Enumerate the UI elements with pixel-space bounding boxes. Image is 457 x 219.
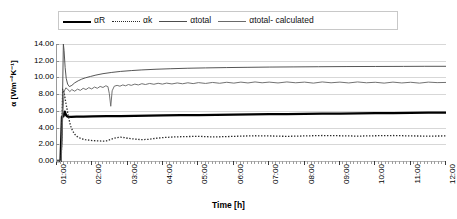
x-axis-minor-tick <box>251 161 252 164</box>
x-axis-minor-tick <box>219 161 220 164</box>
x-axis-major-tick <box>374 161 375 165</box>
x-axis-minor-tick <box>123 161 124 164</box>
x-axis-tick-label: 01:00 <box>60 164 68 196</box>
x-axis-minor-tick <box>261 161 262 164</box>
x-axis-minor-tick <box>325 161 326 164</box>
x-axis-minor-tick <box>187 161 188 164</box>
legend-item-1: αk <box>112 16 152 26</box>
x-axis-tick-label: 10:00 <box>378 164 386 196</box>
x-axis-minor-tick <box>254 161 255 164</box>
x-axis-tick-label: 12:00 <box>449 164 457 196</box>
y-axis-tick-mark <box>56 144 59 145</box>
x-axis-title: Time [h] <box>0 200 457 210</box>
x-axis-minor-tick <box>399 161 400 164</box>
y-axis-title: α [Wm⁻²K⁻¹] <box>9 46 18 122</box>
y-axis-tick-mark <box>56 77 59 78</box>
x-axis-minor-tick <box>431 161 432 164</box>
legend-item-label: αtotal <box>190 16 211 25</box>
x-axis-tick-label: 09:00 <box>343 164 351 196</box>
x-axis-tick-label: 04:00 <box>166 164 174 196</box>
x-axis-minor-tick <box>367 161 368 164</box>
x-axis-tick-label: 11:00 <box>414 164 422 196</box>
x-axis-minor-tick <box>406 161 407 164</box>
x-axis-minor-tick <box>74 161 75 164</box>
x-axis-minor-tick <box>318 161 319 164</box>
x-axis-minor-tick <box>190 161 191 164</box>
x-axis-tick-label: 02:00 <box>95 164 103 196</box>
x-axis-minor-tick <box>70 161 71 164</box>
x-axis-minor-tick <box>194 161 195 164</box>
x-axis-minor-tick <box>328 161 329 164</box>
x-axis-minor-tick <box>438 161 439 164</box>
x-axis-minor-tick <box>388 161 389 164</box>
x-axis-minor-tick <box>247 161 248 164</box>
y-axis-tick-mark <box>56 128 59 129</box>
x-axis-major-tick <box>339 161 340 165</box>
y-axis-tick-label: 14.00 <box>34 40 54 48</box>
x-axis-minor-tick <box>222 161 223 164</box>
y-axis-title-text: α [Wm⁻²K⁻¹] <box>9 60 18 106</box>
y-axis-tick-label: 10.00 <box>34 73 54 81</box>
y-axis-tick-label: 2.00 <box>38 140 54 148</box>
legend-item-2: αtotal <box>159 16 211 26</box>
y-axis-tick-mark <box>56 94 59 95</box>
chart-legend: αRαkαtotalαtotal- calculated <box>58 11 398 30</box>
series-line-0 <box>57 112 446 161</box>
series-line-2 <box>57 44 446 161</box>
series-line-3 <box>57 82 446 161</box>
y-axis-tick-mark <box>56 44 59 45</box>
y-axis-tick-label: 6.00 <box>38 107 54 115</box>
x-axis-minor-tick <box>293 161 294 164</box>
x-axis-tick-label: 07:00 <box>272 164 280 196</box>
x-axis-minor-tick <box>441 161 442 164</box>
plot-area <box>56 44 446 162</box>
x-axis-minor-tick <box>403 161 404 164</box>
legend-item-label: αtotal- calculated <box>249 16 313 25</box>
x-axis-minor-tick <box>144 161 145 164</box>
series-layer <box>57 44 446 161</box>
legend-line-swatch-icon <box>218 16 246 26</box>
legend-item-3: αtotal- calculated <box>218 16 313 26</box>
x-axis-minor-tick <box>265 161 266 164</box>
legend-line-swatch-icon <box>112 16 140 26</box>
x-axis-tick-label: 03:00 <box>131 164 139 196</box>
x-axis-minor-tick <box>77 161 78 164</box>
y-axis-tick-label: 0.00 <box>38 157 54 165</box>
y-axis-tick-label: 12.00 <box>34 57 54 65</box>
x-axis-minor-tick <box>148 161 149 164</box>
x-axis-minor-tick <box>176 161 177 164</box>
x-axis-minor-tick <box>353 161 354 164</box>
y-axis-tick-labels: 0.002.004.006.008.0010.0012.0014.00 <box>18 44 54 161</box>
x-axis-minor-tick <box>141 161 142 164</box>
y-axis-tick-label: 8.00 <box>38 90 54 98</box>
x-axis-minor-tick <box>106 161 107 164</box>
x-axis-major-tick <box>233 161 234 165</box>
x-axis-major-tick <box>127 161 128 165</box>
y-axis-tick-mark <box>56 111 59 112</box>
x-axis-major-tick <box>445 161 446 165</box>
x-axis-minor-tick <box>212 161 213 164</box>
x-axis-minor-tick <box>229 161 230 164</box>
x-axis-minor-tick <box>427 161 428 164</box>
x-axis-minor-tick <box>300 161 301 164</box>
x-axis-minor-tick <box>155 161 156 164</box>
x-axis-minor-tick <box>113 161 114 164</box>
x-axis-minor-tick <box>88 161 89 164</box>
y-axis-tick-mark <box>56 161 59 162</box>
y-axis-tick-mark <box>56 61 59 62</box>
x-axis-ticks <box>56 161 446 165</box>
x-axis-minor-tick <box>335 161 336 164</box>
chart-figure: αRαkαtotalαtotal- calculated α [Wm⁻²K⁻¹]… <box>0 0 457 219</box>
x-axis-major-tick <box>304 161 305 165</box>
x-axis-major-tick <box>410 161 411 165</box>
x-axis-minor-tick <box>183 161 184 164</box>
x-axis-major-tick <box>162 161 163 165</box>
legend-item-0: αR <box>63 16 105 26</box>
x-axis-minor-tick <box>424 161 425 164</box>
x-axis-minor-tick <box>321 161 322 164</box>
x-axis-minor-tick <box>81 161 82 164</box>
legend-line-swatch-icon <box>63 16 91 26</box>
x-axis-minor-tick <box>116 161 117 164</box>
series-line-1 <box>57 89 446 161</box>
x-axis-minor-tick <box>151 161 152 164</box>
